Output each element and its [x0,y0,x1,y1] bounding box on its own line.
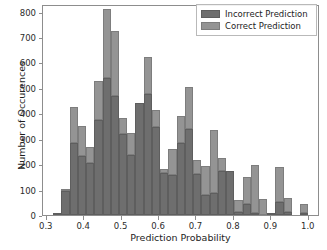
x-tick-label: 0.7 [175,221,215,231]
histogram-bar [267,214,275,215]
histogram-bar [193,160,201,215]
x-tick-label: 0.5 [101,221,141,231]
bar-segment-incorrect [300,213,308,215]
bar-segment-incorrect [210,193,218,215]
histogram-bar [185,87,193,215]
bar-segment-correct [111,31,119,95]
histogram-bar [78,126,86,215]
histogram-bar [259,199,267,215]
y-tick-label: 100 [0,186,36,196]
x-tick-label: 0.4 [63,221,103,231]
plot-area [42,5,319,216]
x-tick-mark [270,216,271,220]
legend-label-incorrect: Incorrect Prediction [225,9,308,20]
bar-segment-incorrect [168,175,176,215]
bar-segment-correct [152,110,160,128]
bar-segment-correct [86,147,94,164]
y-tick-mark [39,63,43,64]
histogram-bar [53,215,61,216]
bar-segment-correct [218,158,226,171]
bar-segment-incorrect [234,212,242,215]
x-axis-label: Prediction Probability [42,232,319,243]
bar-segment-incorrect [70,143,78,215]
x-tick-mark [46,216,47,220]
histogram-bar [111,31,119,215]
bar-segment-correct [243,177,251,204]
y-tick-mark [39,114,43,115]
bar-segment-correct [103,9,111,78]
x-tick-mark [195,216,196,220]
y-tick-mark [39,191,43,192]
bar-segment-incorrect [144,94,152,215]
bars-layer [43,6,318,215]
bar-segment-incorrect [61,191,69,215]
bar-segment-incorrect [135,103,143,215]
bar-segment-correct [234,200,242,211]
y-tick-label: 200 [0,160,36,170]
y-tick-label: 400 [0,109,36,119]
bar-segment-incorrect [119,134,127,215]
x-tick-mark [83,216,84,220]
x-tick-mark [308,216,309,220]
histogram-bar [300,204,308,215]
histogram-bar [243,177,251,215]
bar-segment-correct [127,133,135,155]
legend-label-correct: Correct Prediction [225,21,301,32]
bar-segment-incorrect [193,174,201,215]
bar-segment-correct [168,149,176,174]
y-tick-label: 700 [0,33,36,43]
histogram-bar [177,116,185,215]
bar-segment-correct [94,81,102,120]
x-tick-mark [233,216,234,220]
bar-segment-incorrect [86,163,94,215]
bar-segment-correct [78,126,86,156]
bar-segment-incorrect [160,173,168,215]
bar-segment-correct [259,199,267,215]
bar-segment-incorrect [251,213,259,215]
histogram-bar [135,103,143,215]
histogram-bar [103,9,111,215]
histogram-bar [61,189,69,215]
bar-segment-correct [201,166,209,194]
bar-segment-incorrect [267,213,275,215]
bar-segment-incorrect [284,212,292,215]
bar-segment-incorrect [127,155,135,215]
y-tick-mark [39,13,43,14]
x-tick-label: 1.0 [288,221,327,231]
legend-item-incorrect[interactable]: Incorrect Prediction [201,8,312,20]
y-tick-mark [39,89,43,90]
histogram-figure: Prediction Probability Number of Occuren… [0,0,327,250]
bar-segment-correct [300,204,308,213]
y-tick-label: 300 [0,135,36,145]
y-tick-mark [39,165,43,166]
bar-segment-incorrect [53,213,61,215]
histogram-bar [226,171,234,215]
bar-segment-incorrect [226,171,234,215]
bar-segment-correct [185,87,193,129]
bar-segment-correct [177,116,185,142]
histogram-bar [160,169,168,215]
bar-segment-incorrect [218,171,226,215]
legend-swatch-incorrect [201,10,220,18]
legend-item-correct[interactable]: Correct Prediction [201,20,312,32]
histogram-bar [218,158,226,215]
histogram-bar [127,133,135,215]
bar-segment-correct [210,130,218,192]
histogram-bar [144,57,152,215]
bar-segment-incorrect [201,195,209,215]
histogram-bar [234,200,242,215]
bar-segment-correct [251,165,259,213]
bar-segment-incorrect [94,120,102,215]
bar-segment-incorrect [152,127,160,215]
x-tick-mark [121,216,122,220]
histogram-bar [94,81,102,215]
bar-segment-incorrect [78,156,86,215]
histogram-bar [251,165,259,215]
y-tick-mark [39,38,43,39]
chart-legend: Incorrect Prediction Correct Prediction [196,4,317,36]
histogram-bar [86,147,94,215]
x-tick-label: 0.3 [26,221,66,231]
histogram-bar [284,198,292,215]
x-tick-label: 0.6 [138,221,178,231]
bar-segment-correct [193,160,201,174]
